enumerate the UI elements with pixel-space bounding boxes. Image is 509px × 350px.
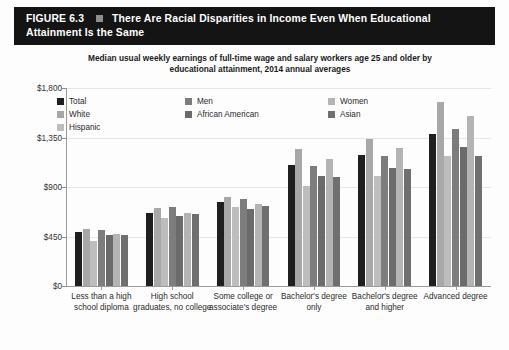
bar (169, 207, 176, 286)
bar (98, 230, 105, 286)
bar (318, 176, 325, 286)
bar (75, 232, 82, 286)
bar (295, 149, 302, 286)
figure-page: FIGURE 6.3There Are Racial Disparities i… (0, 0, 509, 350)
x-axis-label: Some college or associate's degree (204, 292, 283, 313)
bar (475, 156, 482, 286)
x-axis-tickmark (385, 286, 386, 290)
bar (404, 169, 411, 286)
bar-group (75, 88, 128, 286)
bar (288, 165, 295, 286)
x-axis-tickmark (172, 286, 173, 290)
bar (467, 116, 474, 286)
bar (396, 148, 403, 286)
bar-group (429, 88, 482, 286)
bar (161, 218, 168, 286)
y-axis-label: $900 (44, 183, 62, 192)
bar-group (146, 88, 199, 286)
bar (154, 208, 161, 286)
y-axis-label: $450 (44, 232, 62, 241)
bar (310, 166, 317, 286)
x-axis-label: High school graduates, no college (133, 292, 212, 313)
bar (176, 216, 183, 286)
bar (303, 186, 310, 286)
x-axis-label: Bachelor's degree and higher (345, 292, 424, 313)
bar (224, 197, 231, 286)
bar (437, 102, 444, 286)
y-axis-label: $1,800 (37, 84, 62, 93)
bar (121, 235, 128, 286)
bar (113, 234, 120, 286)
bar (262, 206, 269, 286)
bar (255, 204, 262, 286)
bar (429, 134, 436, 286)
bar (358, 155, 365, 286)
bar (106, 235, 113, 286)
bar (444, 156, 451, 286)
bar (374, 176, 381, 286)
x-axis-tickmark (314, 286, 315, 290)
bar-group (358, 88, 411, 286)
bar (366, 139, 373, 287)
x-axis-line (66, 286, 491, 287)
bar (452, 129, 459, 286)
bar (333, 177, 340, 286)
y-axis-tick-labels: $0$450$900$1,350$1,800 (16, 0, 62, 350)
bar (381, 156, 388, 286)
bar (192, 214, 199, 286)
bar (247, 209, 254, 286)
chart-plot-area: $0$450$900$1,350$1,800 Less than a high … (0, 0, 509, 350)
x-axis-label: Advanced degree (416, 292, 495, 303)
bar-group (217, 88, 270, 286)
bar (389, 168, 396, 286)
x-axis-tickmark (456, 286, 457, 290)
bar (146, 213, 153, 286)
bar (83, 229, 90, 286)
bar (326, 159, 333, 286)
bar (240, 199, 247, 286)
x-axis-tickmark (243, 286, 244, 290)
bars-group (66, 88, 491, 286)
y-axis-label: $0 (53, 282, 62, 291)
bar (232, 207, 239, 286)
bar (184, 213, 191, 286)
bar (460, 147, 467, 286)
bar (90, 241, 97, 286)
x-axis-label: Less than a high school diploma (62, 292, 141, 313)
x-axis-tickmark (101, 286, 102, 290)
bar-group (288, 88, 341, 286)
bar (217, 202, 224, 286)
y-axis-label: $1,350 (37, 133, 62, 142)
x-axis-label: Bachelor's degree only (274, 292, 353, 313)
